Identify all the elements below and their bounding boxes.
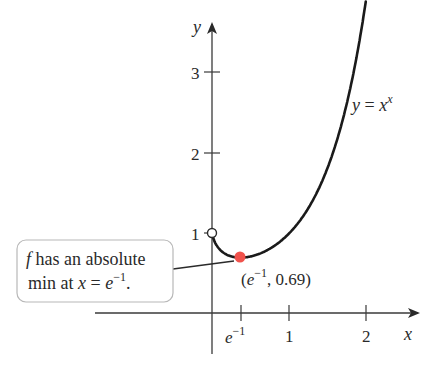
svg-text:f has an absolute: f has an absolute: [26, 249, 145, 269]
callout-box: f has an absolute min at x = e−1.: [17, 240, 173, 302]
callout-leader-line: [173, 261, 234, 269]
y-tick-label-3: 3: [191, 64, 200, 83]
y-tick-label-1: 1: [191, 225, 200, 244]
chart: y x 3 2 1 e−1 1 2 y = xx (e−1, 0.69) f h…: [0, 0, 423, 366]
minimum-point: [235, 252, 246, 263]
curve-x-to-the-x: [212, 2, 365, 258]
x-tick-label-2: 2: [362, 327, 371, 346]
y-axis-label: y: [191, 17, 201, 37]
x-axis-label: x: [403, 324, 412, 344]
x-tick-label-1: 1: [285, 327, 294, 346]
min-point-label: (e−1, 0.69): [241, 266, 311, 289]
y-tick-label-2: 2: [191, 145, 200, 164]
x-tick-label-e-inv: e−1: [225, 324, 245, 347]
open-circle-point: [208, 229, 217, 238]
curve-label: y = xx: [350, 92, 393, 115]
